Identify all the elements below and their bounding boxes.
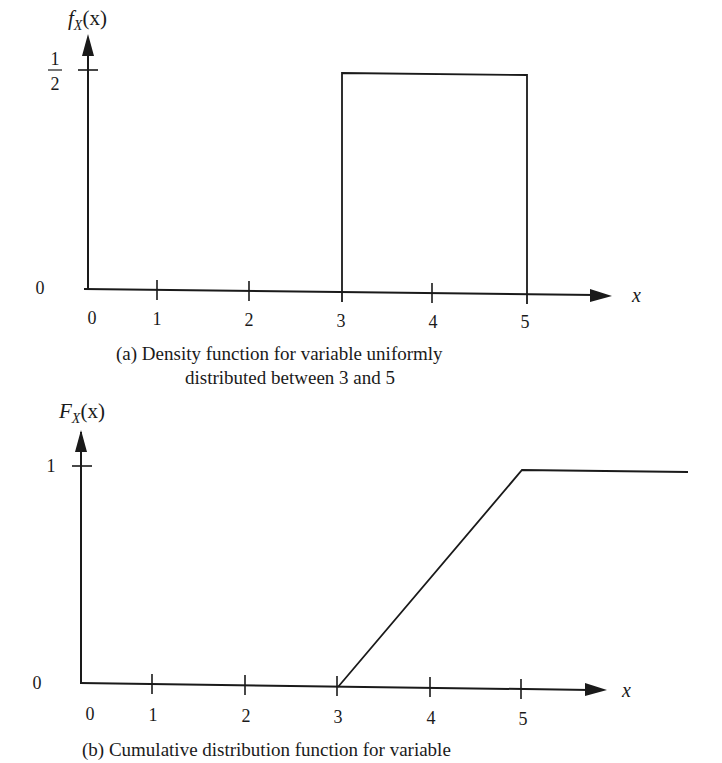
cdf-chart: FX(x) 1 0 x 0 1 2 3 4 5 (b) Cumulative d…: [33, 399, 689, 761]
svg-text:5: 5: [521, 312, 530, 332]
x-tick-labels-b: 0 1 2 3 4 5: [86, 704, 528, 729]
y-axis-arrow-icon: [82, 34, 94, 56]
svg-text:4: 4: [427, 708, 436, 728]
svg-text:3: 3: [337, 311, 346, 331]
y-tick-label-half-den: 2: [51, 74, 60, 94]
x-axis-label-a: x: [631, 284, 641, 306]
svg-text:2: 2: [245, 310, 254, 330]
y-axis-arrow-icon: [75, 430, 87, 452]
x-axis-arrow-icon: [585, 683, 607, 696]
x-axis-a: [84, 289, 595, 295]
svg-text:1: 1: [153, 309, 162, 329]
y-axis-label-b: FX(x): [58, 399, 105, 426]
svg-text:0: 0: [88, 308, 97, 328]
y-tick-label-one: 1: [47, 456, 56, 476]
svg-text:5: 5: [519, 709, 528, 729]
svg-text:1: 1: [149, 705, 158, 725]
figure-canvas: fX(x) 1 2 0 x 0 1 2 3 4 5 (a) Density fu…: [0, 0, 722, 763]
caption-a-line2: distributed between 3 and 5: [185, 367, 395, 388]
cdf-curve: [338, 470, 688, 687]
svg-text:4: 4: [429, 312, 438, 332]
svg-text:2: 2: [242, 706, 251, 726]
svg-text:3: 3: [334, 707, 343, 727]
y-tick-label-half-num: 1: [51, 49, 60, 69]
caption-a-line1: (a) Density function for variable unifor…: [116, 343, 443, 365]
x-tick-labels-a: 0 1 2 3 4 5: [88, 308, 530, 332]
y-tick-label-zero-b: 0: [33, 673, 42, 693]
x-axis-arrow-icon: [590, 289, 612, 302]
density-chart: fX(x) 1 2 0 x 0 1 2 3 4 5 (a) Density fu…: [36, 6, 642, 388]
density-curve: [342, 73, 527, 304]
svg-text:0: 0: [86, 704, 95, 724]
x-axis-b: [80, 683, 590, 690]
caption-b-line1: (b) Cumulative distribution function for…: [82, 739, 451, 761]
y-axis-label-a: fX(x): [68, 6, 107, 33]
y-tick-label-zero-a: 0: [36, 278, 45, 298]
x-axis-label-b: x: [621, 679, 631, 701]
